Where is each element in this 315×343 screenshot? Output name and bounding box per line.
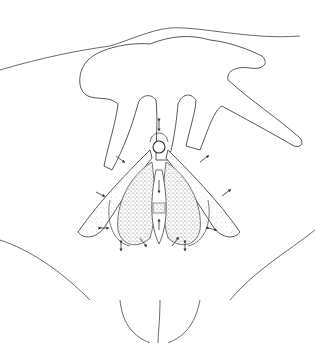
illustration-canvas [0,0,315,343]
hand-outline [80,37,302,170]
anatomical-illustration [0,0,315,343]
